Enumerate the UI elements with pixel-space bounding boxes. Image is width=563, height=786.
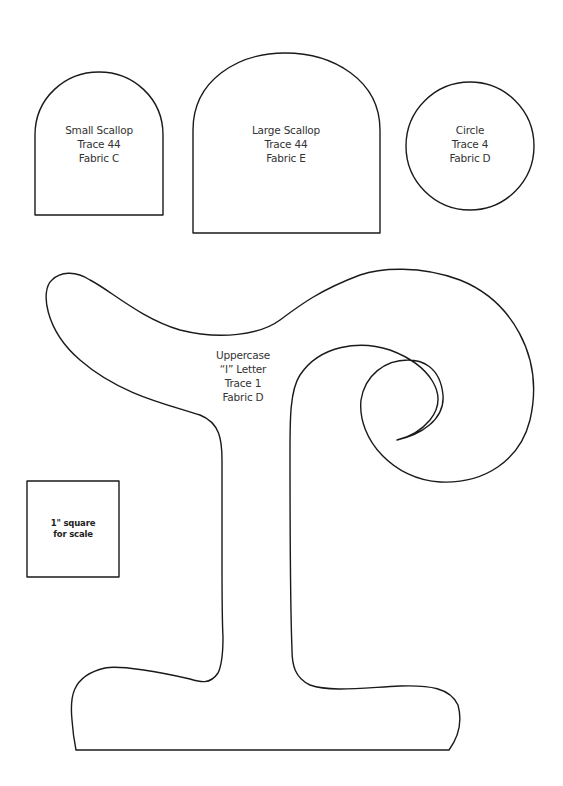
- large-scallop-fabric: Fabric E: [252, 151, 320, 165]
- circle-label: Circle Trace 4 Fabric D: [449, 123, 490, 165]
- circle-name: Circle: [449, 123, 490, 137]
- small-scallop-fabric: Fabric C: [65, 151, 133, 165]
- large-scallop-label: Large Scallop Trace 44 Fabric E: [252, 123, 320, 165]
- large-scallop-trace: Trace 44: [252, 137, 320, 151]
- small-scallop-trace: Trace 44: [65, 137, 133, 151]
- uppercase-i-name: Uppercase: [216, 348, 270, 362]
- uppercase-i-fabric: Fabric D: [216, 390, 270, 404]
- large-scallop-name: Large Scallop: [252, 123, 320, 137]
- small-scallop-label: Small Scallop Trace 44 Fabric C: [65, 123, 133, 165]
- small-scallop-name: Small Scallop: [65, 123, 133, 137]
- uppercase-i-letter: “I” Letter: [216, 362, 270, 376]
- circle-fabric: Fabric D: [449, 151, 490, 165]
- scale-square-line-2: for scale: [51, 529, 95, 540]
- scale-square-line-1: 1" square: [51, 518, 95, 529]
- pattern-outlines: [0, 0, 563, 786]
- uppercase-i-trace: Trace 1: [216, 376, 270, 390]
- scale-square-label: 1" square for scale: [51, 518, 95, 540]
- pattern-page: Small Scallop Trace 44 Fabric C Large Sc…: [0, 0, 563, 786]
- circle-trace: Trace 4: [449, 137, 490, 151]
- uppercase-i-label: Uppercase “I” Letter Trace 1 Fabric D: [216, 348, 270, 404]
